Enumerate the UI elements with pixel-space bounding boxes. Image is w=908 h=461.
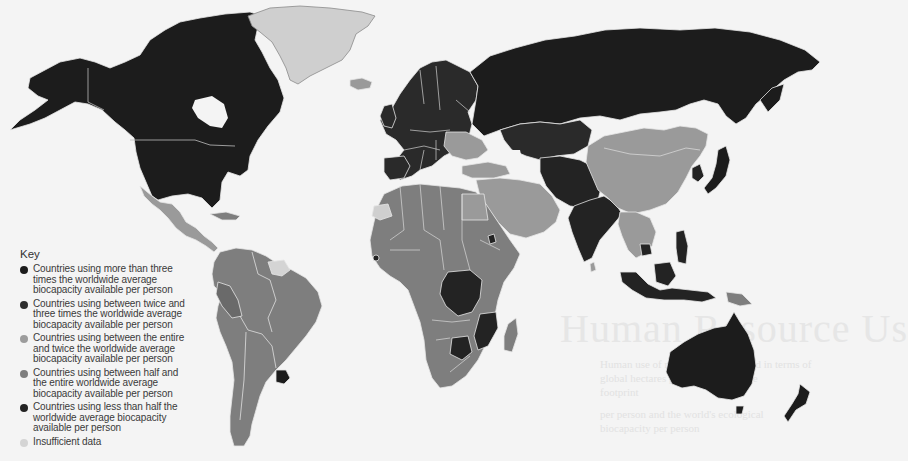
region-australia[interactable] [666, 312, 756, 400]
key-label: Countries using more than three times th… [33, 264, 190, 296]
region-north-america[interactable] [10, 12, 284, 208]
legend-swatch-icon [20, 301, 28, 309]
key-item-more-than-three-times: Countries using more than three times th… [20, 264, 190, 296]
key-item-entire-to-twice: Countries using between the entire and t… [20, 333, 190, 365]
region-borneo[interactable] [654, 262, 676, 286]
key-label: Countries using between twice and three … [33, 299, 190, 331]
region-egypt[interactable] [462, 194, 488, 220]
region-sri-lanka[interactable] [590, 262, 596, 272]
region-tasmania[interactable] [736, 406, 744, 414]
region-philippines[interactable] [676, 230, 688, 264]
key-label: Countries using between half and the ent… [33, 368, 190, 400]
region-caribbean[interactable] [210, 212, 240, 220]
region-sierra-leone[interactable] [373, 255, 379, 261]
legend-swatch-icon [20, 370, 28, 378]
key-label: Countries using between the entire and t… [33, 333, 190, 365]
region-new-zealand[interactable] [784, 384, 810, 422]
region-south-america[interactable] [212, 248, 322, 446]
legend-swatch-icon [20, 266, 28, 274]
key-item-twice-to-three-times: Countries using between twice and three … [20, 299, 190, 331]
region-papua-new-guinea[interactable] [726, 292, 752, 306]
region-uruguay[interactable] [276, 370, 290, 384]
region-india[interactable] [568, 196, 622, 262]
region-korea[interactable] [692, 164, 704, 182]
key-item-insufficient-data: Insufficient data [20, 437, 190, 448]
key-title: Key [20, 248, 190, 260]
region-cambodia[interactable] [640, 244, 652, 256]
region-madagascar[interactable] [504, 318, 518, 352]
region-japan[interactable] [704, 146, 730, 194]
key-label: Countries using less than half the world… [33, 402, 190, 434]
key-item-half-to-entire: Countries using between half and the ent… [20, 368, 190, 400]
region-russia[interactable] [470, 28, 820, 136]
legend-swatch-icon [20, 404, 28, 412]
key-label: Insufficient data [33, 437, 101, 448]
legend-swatch-icon [20, 439, 28, 447]
region-turkey[interactable] [462, 162, 510, 178]
region-iceland[interactable] [350, 78, 372, 90]
region-eastern-europe[interactable] [444, 132, 488, 160]
key-item-less-than-half: Countries using less than half the world… [20, 402, 190, 434]
map-key: Key Countries using more than three time… [20, 248, 190, 450]
legend-swatch-icon [20, 335, 28, 343]
